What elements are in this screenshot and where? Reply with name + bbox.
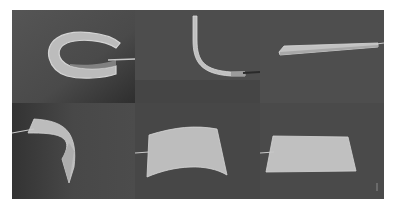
lead-wire bbox=[243, 72, 260, 73]
photo-panel-flat-sheet bbox=[260, 103, 384, 199]
photo-panel-folded-sheet bbox=[12, 103, 135, 199]
photo-panel-arched-sheet bbox=[135, 103, 260, 199]
photo-panel-bent-strip bbox=[135, 10, 260, 103]
flat-sheet-photo bbox=[260, 103, 384, 199]
flat-sheet bbox=[266, 136, 356, 172]
loop-strip-photo bbox=[12, 10, 135, 103]
photo-grid-figure bbox=[12, 10, 384, 199]
photo-panel-flat-strip bbox=[260, 10, 384, 103]
flat-strip-photo bbox=[260, 10, 384, 103]
arched-sheet-photo bbox=[135, 103, 260, 199]
folded-sheet-photo bbox=[12, 103, 135, 199]
bent-strip-photo bbox=[135, 10, 260, 103]
photo-panel-loop-strip bbox=[12, 10, 135, 103]
